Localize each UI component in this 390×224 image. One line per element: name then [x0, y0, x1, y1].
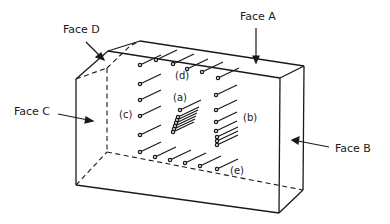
needle-base-dot [138, 114, 141, 117]
group-label-c: (c) [119, 110, 132, 120]
needle-line [200, 156, 221, 166]
needle-line [156, 50, 177, 60]
front-bottom-edge [76, 185, 279, 213]
needle-base-dot [216, 76, 219, 79]
needle-line [216, 100, 237, 110]
arrow-face-b-head [292, 137, 299, 144]
needle-line [216, 112, 237, 122]
needle-line [140, 125, 161, 135]
hidden-bevel-lower [76, 68, 107, 79]
arrow-face-b-shaft [298, 141, 329, 147]
needle-base-dot [138, 98, 141, 101]
needle-line [155, 147, 176, 157]
group-label-b: (b) [243, 113, 257, 123]
needle-base-dot [153, 155, 156, 158]
needle-base-dot [138, 133, 141, 136]
needle-base-dot [215, 139, 218, 142]
needle-group-c [138, 74, 161, 137]
needle-base-dot [171, 62, 174, 65]
back-right-edge [303, 66, 304, 190]
top-right-edge [280, 66, 304, 78]
hidden-bevel-upper [107, 41, 140, 68]
needle-base-dot [154, 58, 157, 61]
face-b-label: Face B [335, 143, 371, 154]
arrow-face-d-head [96, 53, 104, 60]
group-label-a: (a) [173, 93, 187, 103]
needle-base-dot [138, 63, 141, 66]
needle-base-dot [214, 108, 217, 111]
group-label-e: (e) [230, 166, 244, 176]
arrow-face-c-shaft [58, 114, 88, 120]
needle-base-dot [215, 135, 218, 138]
needle-base-dot [214, 129, 217, 132]
arrow-face-a-head [253, 56, 259, 63]
needle-line [185, 153, 206, 163]
bottom-right-edge [279, 190, 303, 213]
label-arrows [58, 28, 329, 147]
face-c-label: Face C [14, 106, 50, 117]
bevel-front-edge [76, 51, 108, 79]
needle-base-dot [215, 167, 218, 170]
needle-line [140, 142, 161, 152]
hidden-bottom-back [107, 152, 303, 190]
needle-base-dot [200, 70, 203, 73]
needle-group-e [138, 142, 238, 171]
needle-base-dot [215, 143, 218, 146]
needle-line [140, 106, 161, 116]
block-diagram [0, 0, 390, 224]
face-a-label: Face A [240, 11, 276, 22]
needle-line [140, 90, 161, 100]
needle-base-dot [178, 108, 181, 111]
needle-line [140, 74, 161, 84]
face-d-label: Face D [63, 24, 100, 35]
needle-groups [138, 50, 239, 171]
needle-line [170, 150, 191, 160]
needle-base-dot [171, 130, 174, 133]
block-outline [76, 41, 304, 213]
needle-base-dot [168, 158, 171, 161]
needle-line [202, 62, 223, 72]
needle-base-dot [138, 150, 141, 153]
front-right-edge [279, 78, 280, 213]
needle-base-dot [183, 161, 186, 164]
needle-base-dot [214, 93, 217, 96]
bevel-top-edge [108, 41, 140, 51]
needle-base-dot [198, 164, 201, 167]
needle-group-b [214, 85, 238, 147]
needle-base-dot [214, 120, 217, 123]
top-front-edge [108, 51, 280, 78]
needle-group-a [171, 100, 201, 134]
arrow-face-c-head [85, 117, 93, 123]
needle-base-dot [138, 82, 141, 85]
group-label-d: (d) [175, 71, 189, 81]
needle-line [216, 85, 237, 95]
hidden-bottom-left [76, 152, 107, 185]
